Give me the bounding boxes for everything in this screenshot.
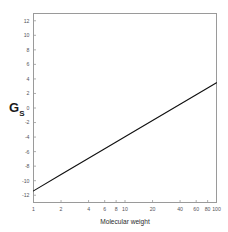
y-tick-label: 10 bbox=[24, 32, 30, 38]
y-axis-title-subscript: S bbox=[19, 109, 25, 118]
y-tick-label: 6 bbox=[27, 61, 30, 67]
y-tick-label: -12 bbox=[22, 192, 30, 198]
x-tick-label: 6 bbox=[103, 206, 106, 212]
chart-canvas: -12-10-8-6-4-2024681012 1246810204060801… bbox=[0, 0, 228, 232]
y-tick-label: 12 bbox=[24, 18, 30, 24]
chart-background bbox=[0, 0, 228, 232]
x-tick-label: 60 bbox=[193, 206, 199, 212]
y-tick-label: -10 bbox=[22, 178, 30, 184]
y-tick-label: -6 bbox=[25, 149, 30, 155]
x-tick-label: 40 bbox=[177, 206, 183, 212]
y-tick-label: 4 bbox=[27, 76, 30, 82]
chart-figure: -12-10-8-6-4-2024681012 1246810204060801… bbox=[0, 0, 228, 232]
x-tick-label: 100 bbox=[212, 206, 221, 212]
x-tick-label: 1 bbox=[32, 206, 35, 212]
x-tick-label: 2 bbox=[60, 206, 63, 212]
x-tick-label: 4 bbox=[87, 206, 90, 212]
y-tick-label: -8 bbox=[25, 163, 30, 169]
y-tick-label: -4 bbox=[25, 134, 30, 140]
x-tick-label: 10 bbox=[122, 206, 128, 212]
x-tick-label: 20 bbox=[150, 206, 156, 212]
y-axis-title-main: G bbox=[9, 100, 19, 115]
y-tick-label: 0 bbox=[27, 105, 30, 111]
x-axis-title: Molecular weight bbox=[100, 218, 150, 226]
x-tick-label: 8 bbox=[115, 206, 118, 212]
y-tick-label: -2 bbox=[25, 119, 30, 125]
y-tick-label: 8 bbox=[27, 47, 30, 53]
x-tick-label: 80 bbox=[205, 206, 211, 212]
y-tick-label: 2 bbox=[27, 90, 30, 96]
